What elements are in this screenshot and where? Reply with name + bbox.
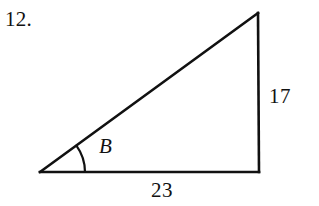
triangle-outline bbox=[40, 13, 259, 172]
opposite-side-line bbox=[258, 13, 259, 172]
angle-arc bbox=[76, 146, 85, 172]
geometry-figure: 12. B 17 23 bbox=[0, 0, 319, 206]
side-label-adjacent: 23 bbox=[151, 180, 173, 201]
angle-label-b: B bbox=[99, 136, 112, 157]
hypotenuse-line bbox=[40, 13, 258, 172]
problem-number: 12. bbox=[5, 9, 32, 30]
side-label-opposite: 17 bbox=[269, 86, 291, 107]
